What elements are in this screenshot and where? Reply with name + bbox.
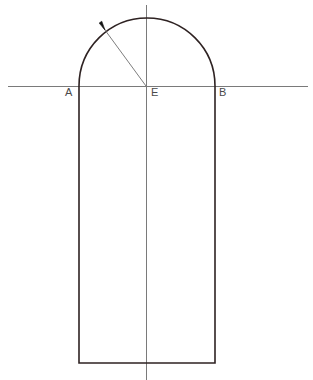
vertex-label-b: B: [219, 87, 226, 98]
vertex-label-a: A: [65, 87, 72, 98]
radius-arrowhead-icon: [99, 21, 105, 30]
radius-indicator-line: [102, 26, 146, 86]
diagram-canvas: A E B: [0, 0, 313, 380]
arch-construction-figure: [0, 0, 313, 380]
vertex-label-e: E: [151, 87, 158, 98]
